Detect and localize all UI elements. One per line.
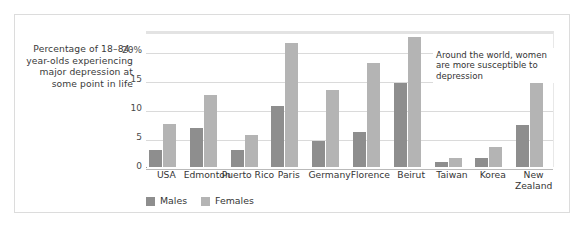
bar-females-puerto-rico	[245, 135, 258, 167]
bar-group	[187, 34, 228, 167]
y-tick-label-15: 15	[116, 75, 142, 84]
x-tick-label-new-zealand: New Zealand	[505, 170, 562, 191]
legend-label-males: Males	[160, 196, 187, 206]
chart-figure: Percentage of 18–84-year-olds experienci…	[14, 14, 570, 213]
y-tick-label-20: 20%	[116, 46, 142, 55]
chart-legend: MalesFemales	[146, 196, 254, 206]
bar-females-edmonton	[204, 95, 217, 167]
bar-group	[391, 34, 432, 167]
bar-males-germany	[312, 141, 325, 167]
bar-females-florence	[367, 63, 380, 167]
legend-item-males: Males	[146, 196, 187, 206]
bar-females-paris	[285, 43, 298, 167]
bar-males-puerto-rico	[231, 150, 244, 167]
bar-males-new-zealand	[516, 125, 529, 167]
bar-females-usa	[163, 124, 176, 167]
bar-males-paris	[271, 106, 284, 167]
y-axis-tick-labels: 05101520%	[112, 31, 142, 167]
bar-females-taiwan	[449, 158, 462, 167]
bar-females-korea	[489, 147, 502, 167]
legend-swatch-males	[146, 197, 155, 206]
legend-label-females: Females	[215, 196, 254, 206]
chart-annotation: Around the world, women are more suscept…	[433, 48, 561, 83]
bar-group	[146, 34, 187, 167]
bar-group	[309, 34, 350, 167]
bar-males-florence	[353, 132, 366, 167]
legend-item-females: Females	[201, 196, 254, 206]
bar-males-edmonton	[190, 128, 203, 167]
bar-group	[228, 34, 269, 167]
bar-group	[350, 34, 391, 167]
bar-males-korea	[475, 158, 488, 167]
y-tick-label-5: 5	[116, 133, 142, 142]
bar-males-beirut	[394, 83, 407, 167]
y-tick-label-10: 10	[116, 104, 142, 113]
bar-females-beirut	[408, 37, 421, 167]
bar-females-new-zealand	[530, 79, 543, 167]
bar-males-taiwan	[435, 162, 448, 167]
bar-males-usa	[149, 150, 162, 167]
legend-swatch-females	[201, 197, 210, 206]
bar-group	[268, 34, 309, 167]
bar-females-germany	[326, 90, 339, 167]
